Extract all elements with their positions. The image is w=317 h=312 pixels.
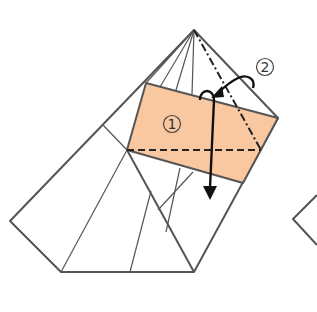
next-step-shape-partial bbox=[293, 195, 317, 245]
colored-flap bbox=[127, 83, 278, 183]
step-1-number: 1 bbox=[168, 116, 177, 132]
origami-diagram: 1 2 bbox=[0, 0, 317, 312]
step-2-number: 2 bbox=[261, 59, 270, 75]
step-2-label: 2 bbox=[257, 59, 274, 76]
fold-arrow-step-2 bbox=[211, 76, 254, 98]
